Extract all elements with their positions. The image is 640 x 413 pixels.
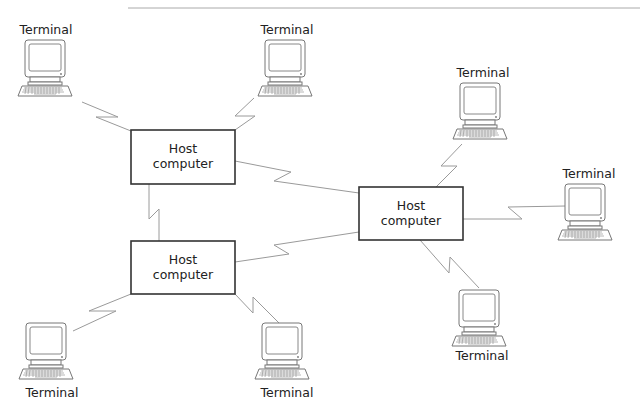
terminal-label: Terminal [562,166,616,181]
terminal-computer-icon [258,40,312,96]
host-label-line1: Host [169,141,198,156]
host-label-line1: Host [169,252,198,267]
link-host-1-host-2 [149,184,159,241]
terminal-computer-icon [453,83,507,139]
link-host-2-terminal-7 [235,294,279,323]
terminal-computer-icon [19,323,73,379]
link-host-2-host-3 [235,232,359,262]
terminal-7: Terminal [255,323,313,400]
host-label-line1: Host [397,198,426,213]
host-computer-3: Host computer [359,187,463,240]
terminal-label: Terminal [260,385,314,400]
terminal-computer-icon [18,40,72,96]
terminal-4: Terminal [558,166,615,240]
terminal-computer-icon [558,184,612,240]
link-host-3-terminal-3 [436,144,462,187]
link-host-3-terminal-4 [463,206,566,219]
terminal-2: Terminal [258,22,313,96]
terminal-label: Terminal [455,348,509,363]
host-label-line2: computer [381,213,442,228]
terminal-6: Terminal [19,323,78,400]
link-host-2-terminal-6 [73,294,131,331]
terminal-label: Terminal [25,385,79,400]
terminal-label: Terminal [19,22,73,37]
terminal-computer-icon [452,290,506,346]
host-label-line2: computer [153,267,214,282]
terminal-computer-icon [255,323,309,379]
host-computer-1: Host computer [131,130,235,184]
link-terminal-1-host-1 [82,102,131,131]
host-computer-2: Host computer [131,241,235,294]
network-diagram: Host computer Host computer Host compute… [0,0,640,413]
host-label-line2: computer [153,156,214,171]
terminal-label: Terminal [456,65,510,80]
link-host-3-terminal-5 [420,240,479,288]
link-host-1-host-3 [235,161,359,193]
link-terminal-2-host-1 [235,98,255,130]
terminal-3: Terminal [453,65,509,139]
terminal-label: Terminal [260,22,314,37]
terminal-5: Terminal [452,290,508,363]
terminal-1: Terminal [18,22,72,96]
